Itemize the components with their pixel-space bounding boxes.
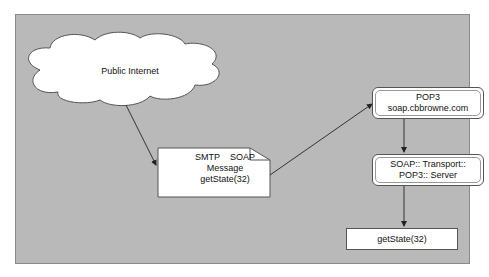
pop3-node: POP3 soap.cbbrowne.com [372,87,484,119]
server-node: SOAP:: Transport:: POP3:: Server [372,154,484,186]
edge-cloud-message [126,105,156,165]
message-line1: SMTP SOAP [190,152,260,163]
server-line2: POP3:: Server [373,170,483,181]
pop3-host: soap.cbbrowne.com [373,103,483,114]
cloud-label: Public Internet [70,66,190,77]
message-line3: getState(32) [190,174,260,185]
message-line2: Message [190,163,260,174]
message-note: SMTP SOAP Message getState(32) [190,152,260,185]
result-node: getState(32) [346,228,458,250]
server-line1: SOAP:: Transport:: [373,159,483,170]
edge-message-pop3 [270,104,372,175]
pop3-title: POP3 [373,92,483,103]
